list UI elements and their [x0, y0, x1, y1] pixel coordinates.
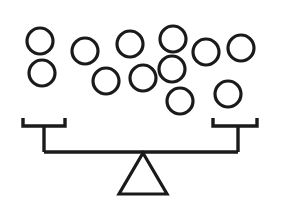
balance-scale-diagram [0, 0, 282, 210]
diagram-background [0, 0, 282, 210]
figure-canvas [0, 0, 282, 210]
